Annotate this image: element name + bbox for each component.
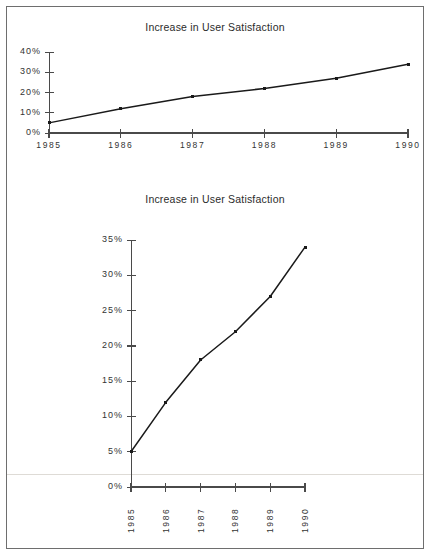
data-point-marker bbox=[119, 107, 122, 110]
data-point-marker bbox=[48, 121, 51, 124]
data-point-marker bbox=[407, 63, 410, 66]
data-point-marker bbox=[335, 77, 338, 80]
data-point-marker bbox=[304, 246, 307, 249]
data-point-marker bbox=[130, 450, 133, 453]
data-point-marker bbox=[234, 330, 237, 333]
top-chart-plot-area: 0%10%20%30%40%198519861987198819891990 bbox=[0, 0, 430, 170]
top-chart: Increase in User Satisfaction 0%10%20%30… bbox=[0, 0, 430, 170]
data-point-marker bbox=[199, 358, 202, 361]
data-point-marker bbox=[263, 87, 266, 90]
figure-page: Increase in User Satisfaction 0%10%20%30… bbox=[0, 0, 430, 555]
data-point-marker bbox=[269, 295, 272, 298]
data-point-marker bbox=[191, 95, 194, 98]
series-line bbox=[0, 0, 430, 170]
data-point-marker bbox=[164, 401, 167, 404]
bottom-chart: Increase in User Satisfaction 0%5%10%15%… bbox=[0, 185, 430, 550]
series-line bbox=[0, 185, 430, 550]
bottom-chart-plot-area: 0%5%10%15%20%25%30%35%198519861987198819… bbox=[0, 185, 430, 550]
